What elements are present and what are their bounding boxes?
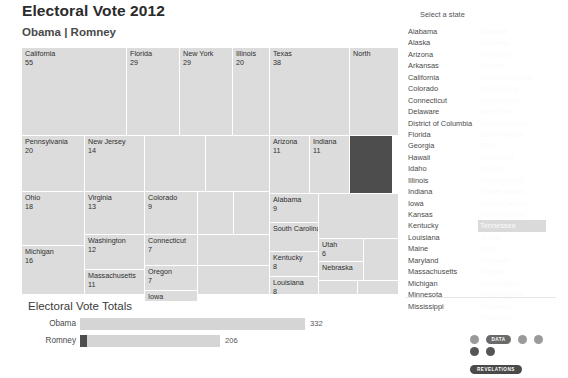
treemap-cell-new-york[interactable]: New York 29 <box>180 48 232 135</box>
treemap-cell-north[interactable]: North <box>350 48 398 135</box>
state-list-item-north-carolina[interactable]: North Carolina <box>478 118 546 129</box>
state-list-item-colorado[interactable]: Colorado <box>406 83 474 94</box>
treemap-cell[interactable] <box>198 192 233 234</box>
treemap-cell-washington[interactable]: Washington 12 <box>85 235 144 269</box>
treemap-cell[interactable] <box>198 235 269 265</box>
treemap-cell-indiana[interactable]: Indiana 11 <box>310 136 349 193</box>
treemap-cell-oregon[interactable]: Oregon 7 <box>145 266 197 290</box>
treemap-cell-california[interactable]: California 55 <box>22 48 126 135</box>
state-list-item-kansas[interactable]: Kansas <box>406 209 474 220</box>
data-revelations-logo: DATA REVELATIONS <box>470 330 554 356</box>
page-title: Electoral Vote 2012 <box>22 2 165 20</box>
state-list-item-new-york[interactable]: New York <box>478 106 546 117</box>
state-list-item-montana[interactable]: Montana <box>478 37 546 48</box>
state-list-item-massachusetts[interactable]: Massachusetts <box>406 266 474 277</box>
treemap-cell-south-carolina[interactable]: South Carolina <box>270 223 318 251</box>
treemap-cell-label: South Carolina <box>273 225 318 234</box>
treemap-cell[interactable] <box>364 239 398 280</box>
treemap-cell-label: Utah 6 <box>322 241 337 258</box>
treemap-cell-label: Alabama 9 <box>273 196 301 213</box>
state-list-item-pennsylvania[interactable]: Pennsylvania <box>478 175 546 186</box>
state-panel-divider <box>406 297 556 298</box>
treemap-cell-virginia[interactable]: Virginia 13 <box>85 192 144 234</box>
state-list-item-florida[interactable]: Florida <box>406 129 474 140</box>
state-list-column-b[interactable]: MissouriMontanaNebraskaNevadaNew Hampshi… <box>478 26 546 323</box>
state-list-item-tennessee[interactable]: Tennessee <box>478 220 546 231</box>
state-list-item-alabama[interactable]: Alabama <box>406 26 474 37</box>
state-list-item-california[interactable]: California <box>406 72 474 83</box>
state-list-item-virginia[interactable]: Virginia <box>478 266 546 277</box>
state-list-item-illinois[interactable]: Illinois <box>406 175 474 186</box>
state-list-item-new-mexico[interactable]: New Mexico <box>478 95 546 106</box>
state-list-item-south-dakota[interactable]: South Dakota <box>478 209 546 220</box>
treemap-cell-massachusetts[interactable]: Massachusetts 11 <box>85 270 144 294</box>
state-list-item-arkansas[interactable]: Arkansas <box>406 60 474 71</box>
state-list-item-indiana[interactable]: Indiana <box>406 186 474 197</box>
treemap-cell-label: Pennsylvania 20 <box>25 138 68 155</box>
state-list-item-south-carolina[interactable]: South Carolina <box>478 198 546 209</box>
treemap-cell-ohio[interactable]: Ohio 18 <box>22 192 84 245</box>
state-select-panel[interactable]: Select a state AlabamaAlaskaArizonaArkan… <box>406 10 556 295</box>
state-list-item-georgia[interactable]: Georgia <box>406 140 474 151</box>
state-list-item-rhode-island[interactable]: Rhode Island <box>478 186 546 197</box>
state-list-item-ohio[interactable]: Ohio <box>478 140 546 151</box>
treemap-cell-florida[interactable]: Florida 29 <box>127 48 179 135</box>
state-list-item-nebraska[interactable]: Nebraska <box>478 49 546 60</box>
treemap-cell[interactable] <box>358 281 398 294</box>
treemap-cell[interactable] <box>234 192 269 234</box>
state-list-column-a[interactable]: AlabamaAlaskaArizonaArkansasCaliforniaCo… <box>406 26 474 312</box>
treemap-cell-connecticut[interactable]: Connecticut 7 <box>145 235 197 265</box>
state-list-item-minnesota[interactable]: Minnesota <box>406 289 474 300</box>
treemap-cell-illinois[interactable]: Illinois 20 <box>233 48 269 135</box>
state-list-item-louisiana[interactable]: Louisiana <box>406 232 474 243</box>
state-list-item-new-hampshire[interactable]: New Hampshire <box>478 72 546 83</box>
treemap-cell-tennessee[interactable]: Tennessee 11 <box>350 136 392 193</box>
state-list-item-hawaii[interactable]: Hawaii <box>406 152 474 163</box>
treemap-cell[interactable] <box>319 194 398 238</box>
state-list-item-vermont[interactable]: Vermont <box>478 255 546 266</box>
state-list-item-west-virginia[interactable]: West Virginia <box>478 289 546 300</box>
treemap-cell-louisiana[interactable]: Louisiana 8 <box>270 277 318 294</box>
state-list-item-idaho[interactable]: Idaho <box>406 163 474 174</box>
treemap-cell-michigan[interactable]: Michigan 16 <box>22 246 84 294</box>
state-list-item-kentucky[interactable]: Kentucky <box>406 220 474 231</box>
state-list-item-connecticut[interactable]: Connecticut <box>406 95 474 106</box>
electoral-vote-totals-panel: Electoral Vote Totals Obama332Romney206 <box>22 300 402 352</box>
state-list-item-maryland[interactable]: Maryland <box>406 255 474 266</box>
state-list-item-wisconsin[interactable]: Wisconsin <box>478 301 546 312</box>
treemap-cell[interactable] <box>198 266 269 294</box>
state-list-item-new-jersey[interactable]: New Jersey <box>478 83 546 94</box>
treemap-cell-arizona[interactable]: Arizona 11 <box>270 136 309 193</box>
treemap-cell[interactable] <box>145 136 205 191</box>
totals-bar-fill <box>80 318 305 330</box>
treemap-cell-alabama[interactable]: Alabama 9 <box>270 194 318 222</box>
treemap-cell-utah[interactable]: Utah 6 <box>319 239 363 261</box>
state-list-item-alaska[interactable]: Alaska <box>406 37 474 48</box>
state-list-item-iowa[interactable]: Iowa <box>406 198 474 209</box>
treemap-cell-texas[interactable]: Texas 38 <box>270 48 349 135</box>
state-list-item-maine[interactable]: Maine <box>406 243 474 254</box>
state-list-item-mississippi[interactable]: Mississippi <box>406 301 474 312</box>
state-list-item-district-of-columbia[interactable]: District of Columbia <box>406 118 474 129</box>
state-list-item-arizona[interactable]: Arizona <box>406 49 474 60</box>
state-list-item-north-dakota[interactable]: North Dakota <box>478 129 546 140</box>
state-list-item-oklahoma[interactable]: Oklahoma <box>478 152 546 163</box>
treemap-cell-nebraska[interactable]: Nebraska <box>319 262 363 280</box>
state-list-item-michigan[interactable]: Michigan <box>406 278 474 289</box>
treemap-cell[interactable] <box>319 281 357 294</box>
treemap-cell[interactable] <box>206 136 269 191</box>
treemap-cell-label: Massachusetts 11 <box>88 272 136 289</box>
treemap-cell-new-jersey[interactable]: New Jersey 14 <box>85 136 144 191</box>
treemap-cell-kentucky[interactable]: Kentucky 8 <box>270 252 318 276</box>
state-list-item-utah[interactable]: Utah <box>478 243 546 254</box>
state-list-item-oregon[interactable]: Oregon <box>478 163 546 174</box>
treemap-cell-colorado[interactable]: Colorado 9 <box>145 192 197 234</box>
electoral-vote-treemap[interactable]: California 55Florida 29New York 29Illino… <box>22 48 398 294</box>
state-list-item-missouri[interactable]: Missouri <box>478 26 546 37</box>
state-list-item-nevada[interactable]: Nevada <box>478 60 546 71</box>
state-list-item-washington[interactable]: Washington <box>478 278 546 289</box>
treemap-cell-pennsylvania[interactable]: Pennsylvania 20 <box>22 136 84 191</box>
state-list-item-wyoming[interactable]: Wyoming <box>478 312 546 323</box>
state-list-item-texas[interactable]: Texas <box>478 232 546 243</box>
state-list-item-delaware[interactable]: Delaware <box>406 106 474 117</box>
